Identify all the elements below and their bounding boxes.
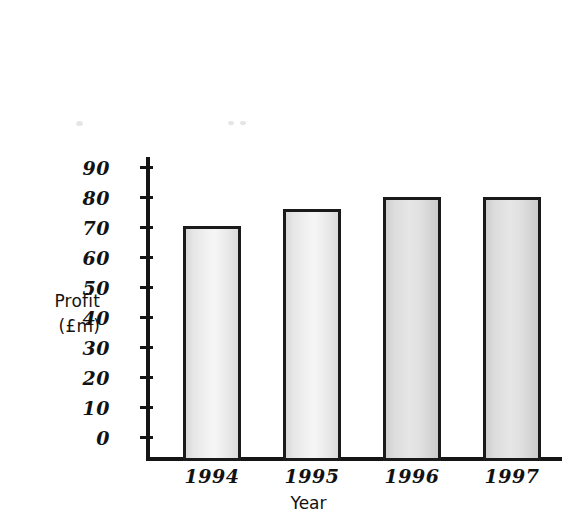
y-tick-label-10: 10 <box>66 399 110 418</box>
y-tick-label-20: 20 <box>66 369 110 388</box>
x-tick-label-1994: 1994 <box>167 465 257 487</box>
y-tick-label-70: 70 <box>66 219 110 238</box>
bar-1995 <box>283 209 341 461</box>
y-tick-label-0: 0 <box>66 429 110 448</box>
x-axis-title-text: Year <box>291 493 327 513</box>
x-tick-label-1995: 1995 <box>267 465 357 487</box>
crop-artifact <box>76 121 83 126</box>
y-tick-label-50: 50 <box>66 279 110 298</box>
bar-1996 <box>383 197 441 461</box>
y-tick-label-90: 90 <box>66 159 110 178</box>
y-tick-label-30: 30 <box>66 339 110 358</box>
bar-chart: Profit (£m) 90 80 70 60 50 40 30 20 10 0… <box>0 121 573 340</box>
x-tick-label-1996: 1996 <box>367 465 457 487</box>
crop-artifact <box>240 121 246 125</box>
y-axis-line <box>146 157 150 460</box>
x-axis-title: Year <box>0 493 573 513</box>
y-tick-label-40: 40 <box>66 309 110 328</box>
y-tick-label-60: 60 <box>66 249 110 268</box>
x-tick-label-1997: 1997 <box>467 465 557 487</box>
bar-1994 <box>183 226 241 462</box>
y-tick-label-80: 80 <box>66 189 110 208</box>
bar-1997 <box>483 197 541 461</box>
crop-artifact <box>228 121 234 125</box>
